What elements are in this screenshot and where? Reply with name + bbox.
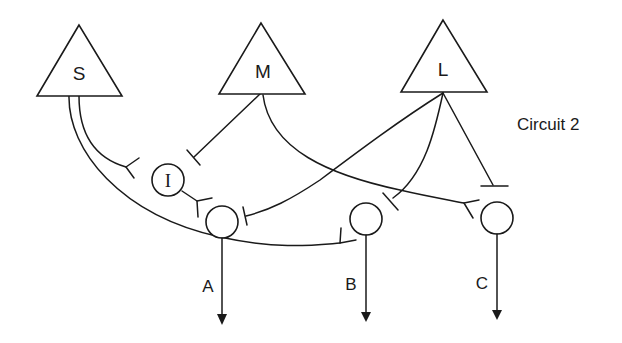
triangle-m: [219, 23, 305, 94]
triangle-l: [401, 20, 487, 92]
triangle-s: [37, 25, 122, 96]
label-l: L: [438, 59, 449, 80]
label-s: S: [73, 63, 86, 84]
arrow-down-icon: [361, 312, 371, 322]
arrow-down-icon: [217, 314, 227, 325]
input-neuron-m: M: [219, 23, 305, 94]
connection-s-to-i: [79, 96, 126, 167]
input-neuron-s: S: [37, 25, 122, 96]
label-b: B: [345, 275, 356, 294]
connection-l-to-c: [443, 93, 493, 185]
excitatory-synapse-m-c: [464, 200, 479, 218]
connection-i-to-a: [182, 191, 197, 201]
label-c: C: [476, 274, 488, 293]
output-neuron-c: C: [476, 202, 513, 320]
interneuron-i: I: [152, 164, 184, 196]
connection-l-to-a: [246, 93, 443, 216]
output-neuron-b: B: [345, 203, 382, 322]
circle-c: [481, 202, 513, 234]
label-i: I: [165, 170, 171, 191]
arrow-down-icon: [492, 310, 502, 320]
diagram-title: Circuit 2: [517, 115, 579, 134]
circuit-diagram: S M L I A B C Circuit 2: [0, 0, 622, 343]
label-m: M: [255, 61, 271, 82]
output-neuron-a: A: [202, 206, 238, 325]
label-a: A: [202, 277, 214, 296]
connection-m-to-i: [194, 94, 260, 157]
connection-m-to-c: [263, 95, 464, 203]
input-neuron-l: L: [401, 20, 487, 92]
connection-s-to-b: [69, 96, 340, 246]
connections: [69, 93, 508, 246]
circle-a: [206, 206, 238, 238]
excitatory-synapse-s-i: [126, 158, 139, 178]
circle-b: [350, 203, 382, 235]
